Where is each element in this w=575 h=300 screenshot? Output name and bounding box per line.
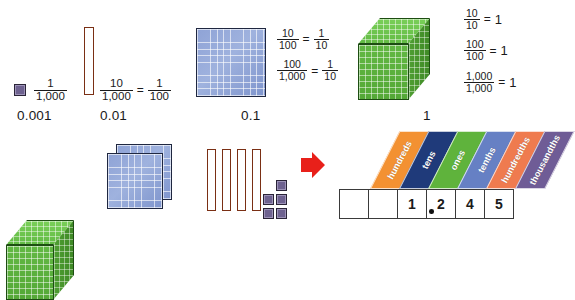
model-rod-1 [207,149,216,211]
numerator: 1,000 [464,71,494,82]
right-arrow-icon [299,150,327,184]
band-label-ones: ones [448,148,467,172]
fraction-10-over-10: 10 10 [464,8,480,30]
numerator: 100 [464,39,486,50]
cube-one [358,18,456,100]
model-flat-front [107,153,163,209]
denominator: 100 [464,50,486,62]
cell-hundreds[interactable] [339,189,369,219]
model-unit-3 [276,194,287,205]
model-rod-3 [237,149,246,211]
model-rod-4 [252,149,261,211]
fraction-10-over-1000: 10 1,000 [100,78,133,102]
cell-tenths[interactable]: 2 [426,189,456,219]
decimal-label-0001: 0.001 [17,108,52,123]
denominator: 10 [314,39,330,51]
unit-inner [264,195,273,204]
denominator: 10 [464,19,480,31]
denominator: 100 [277,39,299,51]
unit-inner [264,209,273,218]
denominator: 1,000 [34,90,67,103]
denominator: 1,000 [277,70,307,82]
unit-cube-inner [15,85,25,95]
cell-hundredths[interactable]: 4 [455,189,485,219]
cell-tens[interactable] [368,189,398,219]
numerator: 10 [108,78,125,90]
denominator: 1,000 [100,90,133,103]
numerator: 1 [316,28,326,39]
numerator: 10 [280,28,296,39]
fraction-1-over-100: 1 100 [148,78,171,102]
model-unit-1 [276,180,287,191]
fraction-100-over-1000: 100 1,000 [277,59,307,81]
unit-inner [277,195,286,204]
decimal-label-01: 0.1 [241,108,260,123]
unit-inner [277,209,286,218]
fraction-1000-over-1000: 1,000 1,000 [464,71,494,93]
numerator: 1 [325,59,335,70]
numerator: 100 [281,59,303,70]
fraction-1-over-1000: 1 1,000 [34,78,67,102]
place-value-bands: hundreds tens ones tenths hundredths tho… [336,131,523,193]
fraction-hundredth: 10 1,000 = 1 100 [100,78,171,102]
band-label-tens: tens [420,149,438,170]
fraction-100-over-100: 100 100 [464,39,486,61]
cube-front-face [358,44,409,100]
model-unit-4 [263,208,274,219]
cell-ones[interactable]: 1 [397,189,427,219]
place-value-cells: 1 2 4 5 [340,189,514,219]
result-value: 1 [509,75,516,90]
unit-inner [277,181,286,190]
equation-10-over-100: 10 100 = 1 10 [277,28,338,50]
model-rod-2 [222,149,231,211]
fraction-thousandth: 1 1,000 [34,78,67,102]
equation-10-over-10: 10 10 = 1 [464,8,517,30]
equation-1000-over-1000: 1,000 1,000 = 1 [464,71,517,93]
numerator: 1 [45,78,55,90]
decimal-label-1: 1 [423,108,431,123]
equals-sign: = [136,83,145,97]
equals-sign: = [310,64,319,78]
denominator: 10 [322,70,338,82]
equals-sign: = [302,32,311,46]
equation-100-over-1000: 100 1,000 = 1 10 [277,59,338,81]
fractions-tenth: 10 100 = 1 10 100 1,000 = 1 10 [277,28,338,82]
result-value: 1 [495,12,502,27]
equals-sign: = [483,12,492,26]
equation-100-over-100: 100 100 = 1 [464,39,517,61]
flat-tenth [196,28,266,97]
equals-sign: = [497,75,506,89]
numerator: 10 [464,8,480,19]
fraction-1-over-10-b: 1 10 [322,59,338,81]
model-cube-front-face [6,245,54,300]
decimal-label-001: 0.01 [100,108,127,123]
fraction-1-over-10: 1 10 [314,28,330,50]
equals-sign: = [489,44,498,58]
result-value: 1 [501,43,508,58]
denominator: 1,000 [464,82,494,94]
place-value-chart: hundreds tens ones tenths hundredths tho… [336,131,523,223]
decimal-point [429,209,434,214]
fraction-10-over-100: 10 100 [277,28,299,50]
cell-thousandths[interactable]: 5 [484,189,514,219]
denominator: 100 [148,90,171,103]
fractions-one: 10 10 = 1 100 100 = 1 1,000 1,000 = 1 [464,8,517,93]
numerator: 1 [154,78,164,90]
model-unit-2 [263,194,274,205]
model-unit-5 [276,208,287,219]
rod-hundredth [84,27,94,95]
model-cube [6,220,98,300]
unit-cube-thousandth [14,84,26,96]
